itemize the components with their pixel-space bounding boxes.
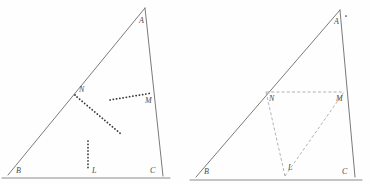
right-label-A: A — [333, 17, 339, 26]
left-label-L: L — [91, 166, 97, 175]
right-label-L: L — [287, 163, 293, 172]
right-label-M: M — [335, 94, 344, 103]
left-dotted-segment-N — [77, 97, 121, 134]
left-label-C: C — [150, 166, 156, 175]
right-label-C: C — [342, 167, 348, 176]
right-edge-BA — [196, 10, 340, 177]
right-dashed-segment-NL — [266, 92, 285, 176]
left-point-N-dot — [74, 94, 76, 96]
right-label-N: N — [268, 94, 275, 103]
geometry-figure: A B C N M L A B C N M L — [0, 0, 370, 184]
left-edge-AC — [145, 8, 163, 176]
figure-canvas: A B C N M L A B C N M L — [0, 0, 370, 184]
left-label-B: B — [16, 166, 21, 175]
right-panel: A B C N M L — [190, 10, 362, 180]
left-label-A: A — [138, 16, 144, 25]
right-apex-marker-dot — [345, 15, 347, 17]
right-dashed-segment-LM — [285, 92, 344, 176]
left-panel: A B C N M L — [2, 8, 170, 178]
right-label-B: B — [204, 167, 209, 176]
left-label-M: M — [144, 96, 153, 105]
left-label-N: N — [78, 85, 85, 94]
left-edge-BA — [8, 8, 145, 175]
